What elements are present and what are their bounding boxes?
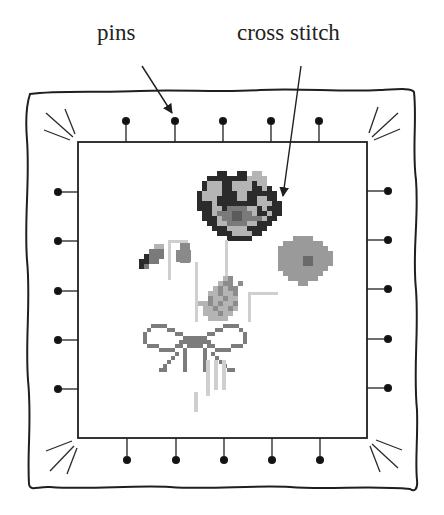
pin-icon — [367, 385, 391, 392]
pin-icon — [55, 337, 78, 344]
pin-icon — [367, 286, 391, 293]
pin-icon — [55, 238, 78, 245]
pin-icon — [172, 118, 179, 142]
cross-stitch-motif — [139, 171, 333, 412]
pin-icon — [268, 118, 275, 142]
pin-icon — [173, 438, 180, 463]
embroidery-diagram — [0, 0, 444, 515]
pin-icon — [221, 438, 228, 463]
cross-stitch-arrow — [283, 66, 301, 196]
pin-icon — [123, 118, 130, 142]
pin-icon — [367, 188, 391, 195]
pin-icon — [367, 336, 391, 343]
pin-icon — [55, 386, 78, 393]
pin-icon — [55, 189, 78, 196]
pin-icon — [55, 288, 78, 295]
pin-icon — [367, 237, 391, 244]
pin-icon — [220, 118, 227, 142]
pin-icon — [269, 438, 276, 463]
pin-icon — [124, 438, 131, 463]
pin-icon — [317, 438, 324, 463]
pin-icon — [316, 118, 323, 142]
